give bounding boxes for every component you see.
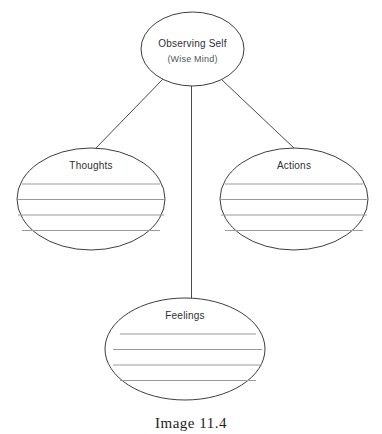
- thoughts-label: Thoughts: [69, 160, 112, 171]
- node-actions: Actions: [220, 148, 368, 250]
- observing-self-label: Observing Self: [158, 38, 226, 49]
- node-observing-self: Observing Self (Wise Mind): [141, 12, 244, 86]
- figure-caption: Image 11.4: [0, 415, 382, 432]
- worksheet-diagram: Observing Self (Wise Mind) Thoughts Acti…: [0, 0, 382, 434]
- observing-self-sublabel: (Wise Mind): [167, 54, 217, 64]
- feelings-label: Feelings: [165, 310, 204, 321]
- node-thoughts: Thoughts: [17, 148, 165, 250]
- actions-label: Actions: [277, 160, 311, 171]
- observing-self-ellipse: [141, 12, 244, 86]
- connector-center-to-thoughts: [95, 79, 163, 149]
- diagram-canvas: Observing Self (Wise Mind) Thoughts Acti…: [0, 0, 382, 434]
- connector-center-to-actions: [221, 79, 295, 149]
- node-feelings: Feelings: [105, 298, 265, 400]
